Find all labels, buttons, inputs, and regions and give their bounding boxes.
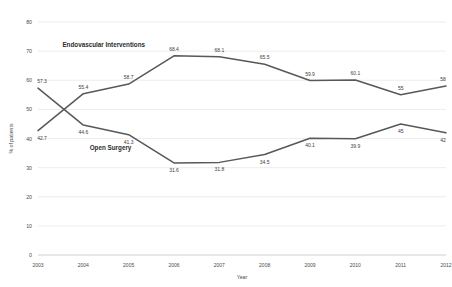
data-point-label: 60.1 <box>350 70 360 76</box>
y-tick-label: 20 <box>26 194 32 200</box>
series-annotation-1: Endovascular Interventions <box>62 41 145 48</box>
series-annotation-2: Open Surgery <box>90 144 132 152</box>
y-tick-label: 80 <box>26 19 32 25</box>
y-axis-title: % of patients <box>8 123 14 153</box>
y-tick-label: 0 <box>29 252 32 258</box>
chart-container: 8070605040302010020032004200520062007200… <box>0 0 452 287</box>
x-tick-label: 2011 <box>395 262 406 268</box>
x-tick-label: 2009 <box>304 262 315 268</box>
data-point-label: 55.4 <box>78 84 88 90</box>
series-line-1 <box>38 56 446 131</box>
x-tick-label: 2003 <box>32 262 43 268</box>
data-point-label: 45 <box>398 128 404 134</box>
series-line-2 <box>38 88 446 163</box>
x-tick-label: 2012 <box>440 262 451 268</box>
y-tick-label: 40 <box>26 136 32 142</box>
data-point-label: 68.1 <box>214 47 224 53</box>
data-point-label: 58 <box>440 76 446 82</box>
x-tick-label: 2005 <box>123 262 134 268</box>
y-tick-label: 70 <box>26 48 32 54</box>
x-axis-title: Year <box>237 274 248 280</box>
x-tick-label: 2010 <box>350 262 361 268</box>
data-point-label: 44.6 <box>78 129 88 135</box>
data-point-label: 58.7 <box>124 74 134 80</box>
y-tick-label: 30 <box>26 165 32 171</box>
data-point-label: 40.1 <box>305 142 315 148</box>
data-point-label: 59.9 <box>305 71 315 77</box>
data-point-label: 55 <box>398 85 404 91</box>
data-point-label: 65.5 <box>260 54 270 60</box>
data-point-label: 42 <box>440 137 446 143</box>
x-tick-label: 2006 <box>168 262 179 268</box>
y-tick-label: 50 <box>26 106 32 112</box>
data-point-label: 39.9 <box>350 143 360 149</box>
y-tick-label: 60 <box>26 77 32 83</box>
x-tick-label: 2007 <box>214 262 225 268</box>
data-point-label: 31.6 <box>169 167 179 173</box>
data-point-label: 57.3 <box>37 78 47 84</box>
data-point-label: 31.8 <box>214 166 224 172</box>
data-point-label: 68.4 <box>169 46 179 52</box>
data-point-label: 34.5 <box>260 159 270 165</box>
x-tick-label: 2004 <box>78 262 89 268</box>
y-tick-label: 10 <box>26 223 32 229</box>
x-tick-label: 2008 <box>259 262 270 268</box>
data-point-label: 42.7 <box>37 135 47 141</box>
line-chart: 8070605040302010020032004200520062007200… <box>0 0 452 287</box>
